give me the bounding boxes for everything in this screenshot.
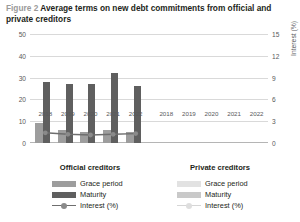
y-axis-tick-right: 15	[272, 31, 290, 38]
legend-item-maturity: Maturity	[52, 189, 123, 200]
bar-group	[179, 34, 199, 143]
x-axis-private: 2018 2019 2020 2021 2022	[155, 110, 268, 122]
bar-groups-private	[155, 34, 268, 143]
y-axis-tick-left: 20	[8, 96, 26, 103]
y-axis-tick-left: 50	[8, 31, 26, 38]
interest-line-official	[34, 34, 147, 143]
y-axis-tick-left: 10	[8, 118, 26, 125]
figure-title: Figure 2 Average terms on new debt commi…	[6, 3, 294, 24]
x-axis-tick: 2019	[58, 110, 78, 122]
legend-label: Interest (%)	[80, 201, 118, 210]
interest-marker	[88, 133, 93, 138]
y-axis-tick-right: 6	[272, 96, 290, 103]
y-axis-tick-right: 12	[272, 52, 290, 59]
panel-caption-private: Private creditors	[150, 163, 290, 172]
x-axis-tick: 2019	[179, 110, 199, 122]
legend-swatch-grace-period	[52, 181, 76, 187]
y-axis-tick-right: 3	[272, 118, 290, 125]
interest-marker	[111, 132, 116, 137]
panel-official-creditors	[34, 34, 147, 143]
y-axis-title-right: Interest (%)	[290, 21, 297, 56]
legend-private: Grace period Maturity Interest (%)	[177, 178, 248, 211]
y-axis-tick-right: 9	[272, 74, 290, 81]
panel-private-creditors	[155, 34, 268, 143]
x-axis-official: 2018 2019 2020 2021 2022	[34, 110, 147, 122]
y-axis-tick-left: 30	[8, 74, 26, 81]
bar-group	[156, 34, 176, 143]
legend-official: Grace period Maturity Interest (%)	[52, 178, 123, 211]
legend-item-grace-period: Grace period	[177, 178, 248, 189]
legend-swatch-maturity	[177, 192, 201, 198]
x-axis-tick: 2018	[35, 110, 55, 122]
plot-area	[30, 34, 268, 143]
legend-item-interest: Interest (%)	[52, 200, 123, 211]
legend-swatch-interest-line	[177, 202, 201, 209]
interest-marker	[43, 130, 48, 135]
legend-label: Grace period	[205, 179, 248, 188]
bar-group	[247, 34, 267, 143]
interest-marker	[66, 132, 71, 137]
legend-swatch-maturity	[52, 192, 76, 198]
x-axis-tick: 2021	[103, 110, 123, 122]
legend-item-interest: Interest (%)	[177, 200, 248, 211]
legend-label: Maturity	[80, 190, 106, 199]
y-axis-tick-left: 40	[8, 52, 26, 59]
x-axis-tick: 2018	[156, 110, 176, 122]
x-axis-tick: 2022	[247, 110, 267, 122]
figure-title-text: Average terms on new debt commitments fr…	[6, 3, 271, 24]
x-axis-tick: 2020	[201, 110, 221, 122]
x-axis-tick: 2021	[224, 110, 244, 122]
figure-number: Figure 2	[6, 3, 38, 13]
legend-item-grace-period: Grace period	[52, 178, 123, 189]
panel-caption-official: Official creditors	[20, 163, 160, 172]
figure-container: Figure 2 Average terms on new debt commi…	[0, 0, 300, 222]
interest-marker	[133, 131, 138, 136]
bar-group	[224, 34, 244, 143]
legend-swatch-interest-line	[52, 202, 76, 209]
legend-label: Grace period	[80, 179, 123, 188]
legend-label: Maturity	[205, 190, 231, 199]
legend-swatch-grace-period	[177, 181, 201, 187]
legend-label: Interest (%)	[205, 201, 243, 210]
x-axis-tick: 2022	[126, 110, 146, 122]
y-axis-tick-left: 0	[8, 140, 26, 147]
legend-item-maturity: Maturity	[177, 189, 248, 200]
bar-group	[201, 34, 221, 143]
x-axis-tick: 2020	[80, 110, 100, 122]
y-axis-tick-right: 0	[272, 140, 290, 147]
